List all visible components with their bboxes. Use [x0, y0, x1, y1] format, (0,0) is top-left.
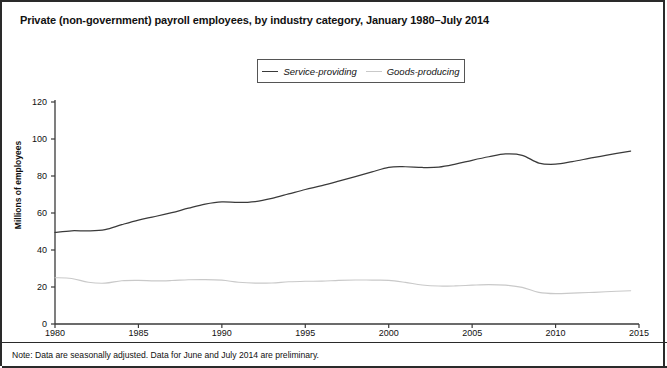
x-tick-label: 2015 [629, 328, 649, 338]
note-divider [2, 342, 667, 343]
y-tick-label: 80 [21, 171, 47, 181]
chart-canvas [2, 2, 667, 368]
x-tick-label: 1985 [128, 328, 148, 338]
series-line-service-providing [55, 151, 631, 232]
x-tick-label: 1990 [212, 328, 232, 338]
y-tick-label: 0 [21, 319, 47, 329]
series-line-goods-producing [55, 278, 631, 294]
plot-area: Millions of employees 020406080100120 19… [2, 2, 667, 368]
y-tick-label: 20 [21, 282, 47, 292]
x-tick-label: 2010 [546, 328, 566, 338]
chart-note: Note: Data are seasonally adjusted. Data… [12, 350, 319, 360]
x-tick-label: 1980 [45, 328, 65, 338]
y-tick-label: 40 [21, 245, 47, 255]
x-tick-label: 2005 [462, 328, 482, 338]
y-tick-label: 100 [21, 134, 47, 144]
y-tick-label: 60 [21, 208, 47, 218]
x-tick-label: 2000 [379, 328, 399, 338]
x-tick-label: 1995 [295, 328, 315, 338]
y-tick-label: 120 [21, 97, 47, 107]
